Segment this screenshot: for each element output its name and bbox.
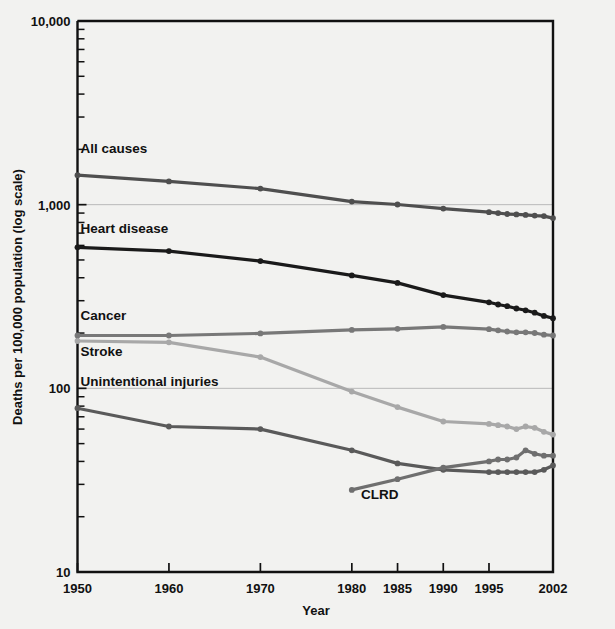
- series-point: [495, 210, 501, 216]
- series-point: [550, 463, 556, 469]
- series-point: [495, 327, 501, 333]
- x-axis-ticks: [78, 563, 554, 572]
- series-point: [75, 405, 81, 411]
- series-point: [440, 206, 446, 212]
- series-point: [550, 432, 556, 438]
- series-point: [504, 329, 510, 335]
- series-point: [486, 209, 492, 215]
- series-point: [532, 451, 538, 457]
- series-point: [395, 476, 401, 482]
- series-point: [349, 447, 355, 453]
- series-point: [440, 292, 446, 298]
- series-point: [440, 419, 446, 425]
- series-point: [166, 179, 172, 185]
- series-point: [486, 326, 492, 332]
- mortality-trend-chart: 10,0001,00010010 19501960197019801985199…: [0, 0, 615, 629]
- series-point: [495, 422, 501, 428]
- series-point: [166, 248, 172, 254]
- x-axis-title: Year: [302, 603, 329, 618]
- series-point: [514, 455, 520, 461]
- series-label-cancer: Cancer: [81, 308, 128, 323]
- y-axis-tick-labels: 10,0001,00010010: [31, 14, 71, 580]
- series-point: [486, 421, 492, 427]
- plot-frame: [78, 21, 554, 572]
- x-tick-label: 2002: [539, 581, 568, 596]
- series-point: [523, 424, 529, 430]
- series-point: [349, 327, 355, 333]
- series-point: [166, 424, 172, 430]
- x-tick-label: 1990: [429, 581, 458, 596]
- series-label-all-causes: All causes: [81, 141, 148, 156]
- y-axis-major-ticks: [78, 21, 87, 572]
- series-point: [395, 280, 401, 286]
- series-point: [550, 333, 556, 339]
- series-point: [258, 426, 264, 432]
- x-tick-label: 1970: [246, 581, 275, 596]
- series-point: [504, 469, 510, 475]
- series-point: [532, 469, 538, 475]
- series-point: [541, 213, 547, 219]
- series-point: [541, 313, 547, 319]
- series-point: [541, 332, 547, 338]
- series-point: [495, 469, 501, 475]
- series-point: [523, 447, 529, 453]
- series-point: [486, 459, 492, 465]
- series-point: [550, 453, 556, 459]
- series-point: [514, 329, 520, 335]
- series-point: [349, 199, 355, 205]
- series-line: [78, 175, 554, 218]
- series-point: [395, 404, 401, 410]
- y-tick-label: 1,000: [38, 198, 71, 213]
- series-line: [78, 327, 554, 336]
- x-tick-label: 1995: [475, 581, 504, 596]
- series-point: [75, 244, 81, 250]
- series-point: [395, 461, 401, 467]
- series-point: [486, 299, 492, 305]
- series-point: [166, 339, 172, 345]
- series-point: [395, 202, 401, 208]
- series-point: [395, 326, 401, 332]
- series-point: [532, 330, 538, 336]
- series-point: [495, 302, 501, 308]
- y-axis-title: Deaths per 100,000 population (log scale…: [10, 169, 25, 425]
- series-point: [541, 467, 547, 473]
- series-point: [75, 333, 81, 339]
- series-label-clrd: CLRD: [361, 487, 399, 502]
- x-tick-label: 1985: [383, 581, 412, 596]
- series-point: [514, 306, 520, 312]
- series-point: [532, 310, 538, 316]
- series-point: [349, 487, 355, 493]
- x-tick-label: 1950: [63, 581, 92, 596]
- series-point: [523, 307, 529, 313]
- series-point: [495, 457, 501, 463]
- series-point: [504, 211, 510, 217]
- chart-canvas: 10,0001,00010010 19501960197019801985199…: [0, 0, 615, 629]
- x-axis-tick-labels: 19501960197019801985199019952002: [63, 581, 567, 596]
- series-point: [258, 331, 264, 337]
- series-point: [523, 212, 529, 218]
- series-point: [514, 426, 520, 432]
- series-point: [514, 469, 520, 475]
- series-label-unintentional-injuries: Unintentional injuries: [81, 374, 219, 389]
- series-label-stroke: Stroke: [81, 344, 124, 359]
- series-point: [440, 465, 446, 471]
- y-tick-label: 10: [56, 565, 70, 580]
- series-point: [523, 469, 529, 475]
- series-point: [532, 425, 538, 431]
- series-point: [258, 186, 264, 192]
- series-point: [486, 469, 492, 475]
- series-point: [440, 324, 446, 330]
- series-line: [78, 247, 554, 318]
- series-point: [550, 215, 556, 221]
- series-point: [258, 354, 264, 360]
- series-point: [349, 273, 355, 279]
- series-point: [166, 333, 172, 339]
- series-point: [514, 212, 520, 218]
- series-point: [541, 453, 547, 459]
- series-point: [349, 389, 355, 395]
- series-point: [504, 303, 510, 309]
- series-point: [258, 258, 264, 264]
- series-label-heart-disease: Heart disease: [81, 221, 169, 236]
- y-tick-label: 100: [49, 381, 71, 396]
- x-tick-label: 1980: [337, 581, 366, 596]
